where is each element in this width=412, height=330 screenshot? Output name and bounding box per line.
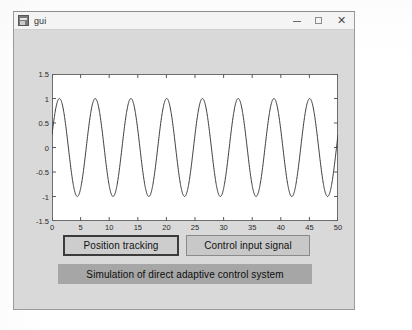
x-tick-label: 35 — [248, 223, 256, 232]
x-tick-label: 50 — [334, 223, 342, 232]
window-title: gui — [34, 16, 46, 26]
x-tick-label: 20 — [162, 223, 170, 232]
gui-window: gui ✕ -1.5-1-0.500.511.5 051015202530354… — [13, 11, 355, 310]
x-tick-label: 10 — [105, 223, 113, 232]
close-icon[interactable]: ✕ — [336, 15, 347, 26]
y-tick-label: -1 — [42, 192, 49, 201]
y-tick-label: 0 — [45, 143, 49, 152]
x-tick-label: 25 — [191, 223, 199, 232]
plot-area: -1.5-1-0.500.511.5 05101520253035404550 — [52, 74, 338, 221]
y-tick-label: -1.5 — [36, 217, 49, 226]
x-tick-label: 0 — [50, 223, 54, 232]
y-tick-label: -0.5 — [36, 168, 49, 177]
position-tracking-button[interactable]: Position tracking — [63, 235, 179, 256]
signal-curve — [52, 99, 338, 197]
button-row: Position tracking Control input signal — [14, 235, 354, 257]
y-tick-label: 1.5 — [39, 70, 49, 79]
x-tick-label: 15 — [134, 223, 142, 232]
minimize-icon[interactable] — [292, 15, 303, 26]
x-tick-label: 5 — [79, 223, 83, 232]
window-controls: ✕ — [292, 15, 352, 26]
plot-canvas — [52, 74, 338, 221]
app-icon — [18, 15, 29, 26]
window-client-area: -1.5-1-0.500.511.5 05101520253035404550 … — [14, 30, 354, 308]
x-tick-label: 40 — [277, 223, 285, 232]
axis-ticks — [52, 74, 338, 221]
simulation-title-banner: Simulation of direct adaptive control sy… — [58, 264, 312, 284]
x-tick-label: 30 — [219, 223, 227, 232]
title-bar: gui ✕ — [14, 12, 354, 30]
maximize-icon[interactable] — [314, 15, 325, 26]
x-tick-label: 45 — [305, 223, 313, 232]
control-input-signal-button[interactable]: Control input signal — [186, 235, 310, 256]
y-tick-label: 1 — [45, 94, 49, 103]
y-tick-label: 0.5 — [39, 119, 49, 128]
